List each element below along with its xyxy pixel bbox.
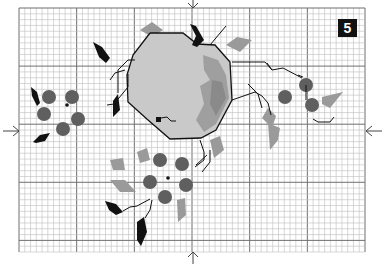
- berry: [179, 178, 193, 192]
- leaf-black-lower-mid: [137, 217, 147, 246]
- berry: [278, 90, 292, 104]
- apple-highlight-dot: [156, 117, 161, 122]
- berry: [153, 153, 167, 167]
- apple: [127, 24, 232, 139]
- arrow-top-icon: [188, 0, 198, 8]
- berry: [305, 98, 319, 112]
- leaf-small-lower: [137, 148, 150, 163]
- berry-center: [166, 176, 170, 180]
- berry: [65, 90, 79, 104]
- arrow-left-icon: [3, 126, 19, 136]
- berry: [158, 190, 172, 204]
- page-number-badge: 5: [338, 19, 357, 37]
- leaf-under-apple: [210, 136, 224, 158]
- leaf-black-top: [93, 42, 110, 63]
- leaf-lower-right: [177, 198, 186, 222]
- arrow-bottom-icon: [188, 252, 198, 264]
- leaf-far-right: [322, 92, 343, 108]
- berry: [56, 122, 70, 136]
- berry: [71, 112, 85, 126]
- berry: [42, 90, 56, 104]
- berry-center: [65, 103, 69, 107]
- berry: [175, 157, 189, 171]
- arrow-right-icon: [366, 126, 382, 136]
- apple-stem-line: [210, 26, 226, 45]
- berry: [37, 107, 51, 121]
- leaf-black-left: [31, 87, 40, 106]
- cross-stitch-chart: [0, 0, 385, 264]
- leaf-black-lower-left: [105, 201, 123, 215]
- berry: [143, 175, 157, 189]
- leaf-top-right: [226, 37, 252, 52]
- leaf-left-bottom: [110, 158, 125, 170]
